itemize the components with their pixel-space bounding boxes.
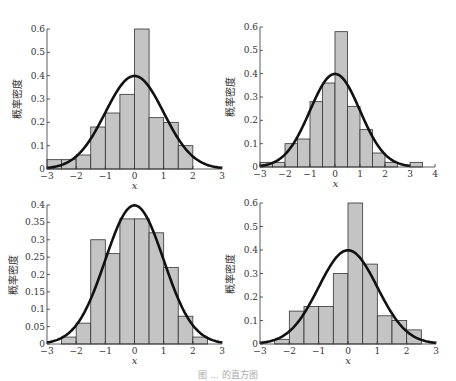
y-tick-label: 0 xyxy=(252,162,258,172)
x-tick-label: 1 xyxy=(374,346,380,356)
histogram-bar xyxy=(76,323,91,344)
histogram-bar xyxy=(310,102,323,167)
histogram-bar xyxy=(135,29,150,169)
histogram-bar xyxy=(377,316,392,344)
y-tick-label: 0.2 xyxy=(31,117,45,127)
x-axis-label: x xyxy=(132,180,138,191)
y-tick-label: 0.25 xyxy=(25,252,45,262)
y-tick-label: 0.2 xyxy=(244,115,258,125)
histogram-bars xyxy=(260,32,423,167)
x-tick-label: 3 xyxy=(433,346,439,356)
x-axis-label: x xyxy=(132,355,138,366)
histogram-bar xyxy=(348,203,363,344)
histogram-bars xyxy=(62,219,208,344)
y-tick-label: 0 xyxy=(39,164,45,174)
histogram-bar xyxy=(149,118,164,169)
panel-top-right: −3−2−10123400.10.20.30.40.50.6x概率密度 xyxy=(224,22,438,189)
x-tick-label: −1 xyxy=(99,171,112,181)
x-tick-label: 1 xyxy=(161,171,167,181)
panel-bottom-left: −3−2−1012300.050.10.150.20.250.30.350.4x… xyxy=(7,200,225,366)
histogram-bar xyxy=(348,106,361,167)
histogram-bars xyxy=(47,29,193,169)
y-tick-label: 0 xyxy=(252,339,258,349)
histogram-bar xyxy=(105,113,120,169)
histogram-bar xyxy=(120,219,135,344)
histogram-bar xyxy=(120,94,135,169)
histogram-bar xyxy=(149,233,164,344)
y-tick-label: 0.6 xyxy=(31,24,46,34)
x-tick-label: 3 xyxy=(407,169,413,179)
panel-top-left: −3−2−1012300.10.20.30.40.50.6x概率密度 xyxy=(11,24,225,191)
x-tick-label: 4 xyxy=(432,169,438,179)
y-tick-label: 0.15 xyxy=(25,287,45,297)
y-tick-label: 0.6 xyxy=(244,22,259,32)
y-tick-label: 0.5 xyxy=(31,47,46,57)
y-tick-label: 0.3 xyxy=(31,235,46,245)
x-tick-label: −2 xyxy=(70,346,83,356)
y-tick-label: 0.3 xyxy=(31,94,46,104)
x-tick-label: −1 xyxy=(99,346,112,356)
y-tick-label: 0.3 xyxy=(244,92,259,102)
y-tick-label: 0.2 xyxy=(244,292,258,302)
x-tick-label: 1 xyxy=(357,169,363,179)
histogram-bar xyxy=(410,162,423,167)
y-tick-label: 0.1 xyxy=(31,304,45,314)
x-tick-label: 2 xyxy=(190,346,196,356)
histogram-bar xyxy=(335,32,348,167)
histogram-bar xyxy=(164,122,179,169)
x-tick-label: −1 xyxy=(303,169,316,179)
y-axis-label: 概率密度 xyxy=(7,255,19,295)
x-tick-label: 3 xyxy=(219,346,225,356)
histogram-bar xyxy=(373,153,386,167)
histogram-bar xyxy=(319,306,334,344)
y-tick-label: 0.3 xyxy=(244,269,259,279)
y-tick-label: 0.5 xyxy=(244,45,259,55)
histogram-bar xyxy=(298,139,311,167)
y-tick-label: 0.1 xyxy=(31,141,45,151)
histogram-bar xyxy=(135,219,150,344)
y-tick-label: 0.4 xyxy=(31,200,46,210)
y-tick-label: 0.4 xyxy=(31,71,46,81)
x-tick-label: −2 xyxy=(283,346,296,356)
x-axis-label: x xyxy=(345,355,351,366)
y-tick-label: 0.35 xyxy=(25,217,45,227)
x-tick-label: 3 xyxy=(219,171,225,181)
x-tick-label: −2 xyxy=(278,169,291,179)
x-axis-label: x xyxy=(333,178,339,189)
histogram-bar xyxy=(333,274,348,345)
panel-bottom-right: −3−2−1012300.10.20.30.40.50.6x概率密度 xyxy=(224,198,439,366)
y-axis-label: 概率密度 xyxy=(11,79,23,119)
y-tick-label: 0.1 xyxy=(244,316,258,326)
histogram-bar xyxy=(76,155,91,169)
y-tick-label: 0.4 xyxy=(244,69,259,79)
x-tick-label: 2 xyxy=(404,346,410,356)
histogram-bar xyxy=(323,83,336,167)
x-tick-label: 2 xyxy=(190,171,196,181)
x-tick-label: −1 xyxy=(312,346,325,356)
y-tick-label: 0.4 xyxy=(244,245,259,255)
histogram-bar xyxy=(363,264,378,344)
y-tick-label: 0.6 xyxy=(244,198,259,208)
x-tick-label: 1 xyxy=(161,346,167,356)
y-axis-label: 概率密度 xyxy=(224,77,236,117)
y-tick-label: 0.1 xyxy=(244,139,258,149)
histogram-bar xyxy=(105,254,120,344)
x-tick-label: 2 xyxy=(382,169,388,179)
y-tick-label: 0.05 xyxy=(25,322,45,332)
y-tick-label: 0.2 xyxy=(31,270,45,280)
y-tick-label: 0.5 xyxy=(244,222,259,232)
figure-caption: 图 ... 的直方图 xyxy=(0,368,456,381)
y-tick-label: 0 xyxy=(39,339,45,349)
x-tick-label: −2 xyxy=(70,171,83,181)
y-axis-label: 概率密度 xyxy=(224,254,236,294)
